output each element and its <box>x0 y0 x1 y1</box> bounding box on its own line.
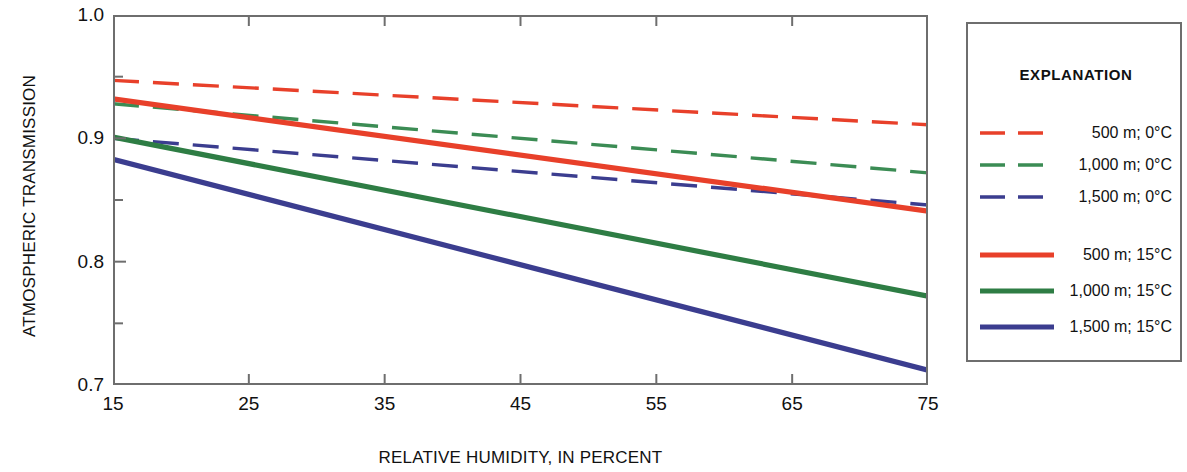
x-axis-title: RELATIVE HUMIDITY, IN PERCENT <box>113 448 928 468</box>
legend-swatch-dashed-icon <box>978 122 1056 144</box>
y-tick-label-0.7: 0.7 <box>48 375 104 394</box>
legend-label: 1,500 m; 0°C <box>1056 188 1184 206</box>
legend-title: EXPLANATION <box>968 66 1184 83</box>
plot-canvas <box>113 15 928 385</box>
legend-label: 500 m; 15°C <box>1056 246 1184 264</box>
y-axis-title: ATMOSPHERIC TRANSMISSION <box>20 21 40 391</box>
y-tick-label-0.9: 0.9 <box>48 128 104 147</box>
legend-swatch-solid-icon <box>978 280 1056 302</box>
legend-entry[interactable]: 500 m; 0°C <box>968 120 1184 146</box>
x-tick-label-75: 75 <box>893 394 963 413</box>
y-tick-label-1.0: 1.0 <box>48 5 104 24</box>
legend-entry[interactable]: 1,500 m; 0°C <box>968 184 1184 210</box>
legend-entry[interactable]: 500 m; 15°C <box>968 242 1184 268</box>
plot-frame <box>114 16 927 384</box>
legend-label: 1,000 m; 15°C <box>1056 282 1184 300</box>
legend-swatch-dashed-icon <box>978 186 1056 208</box>
x-tick-label-65: 65 <box>757 394 827 413</box>
x-tick-label-35: 35 <box>350 394 420 413</box>
x-tick-label-25: 25 <box>214 394 284 413</box>
legend-entry[interactable]: 1,500 m; 15°C <box>968 314 1184 340</box>
axis-ticks-group <box>113 15 792 385</box>
series-line-5 <box>113 159 928 370</box>
legend-label: 500 m; 0°C <box>1056 124 1184 142</box>
x-tick-label-55: 55 <box>621 394 691 413</box>
legend-entry[interactable]: 1,000 m; 15°C <box>968 278 1184 304</box>
legend-box: EXPLANATION 500 m; 0°C1,000 m; 0°C1,500 … <box>966 22 1182 362</box>
legend-entry[interactable]: 1,000 m; 0°C <box>968 152 1184 178</box>
series-line-3 <box>113 99 928 211</box>
legend-swatch-solid-icon <box>978 316 1056 338</box>
x-tick-label-45: 45 <box>486 394 556 413</box>
atmospheric-transmission-chart: ATMOSPHERIC TRANSMISSION 0.70.80.91.0 15… <box>0 0 1187 472</box>
x-axis-tick-labels: 15253545556575 <box>113 394 928 420</box>
legend-label: 1,500 m; 15°C <box>1056 318 1184 336</box>
data-series-group <box>113 80 928 370</box>
legend-label: 1,000 m; 0°C <box>1056 156 1184 174</box>
y-tick-label-0.8: 0.8 <box>48 252 104 271</box>
plot-area <box>113 15 928 385</box>
legend-swatch-solid-icon <box>978 244 1056 266</box>
x-tick-label-15: 15 <box>78 394 148 413</box>
legend-swatch-dashed-icon <box>978 154 1056 176</box>
